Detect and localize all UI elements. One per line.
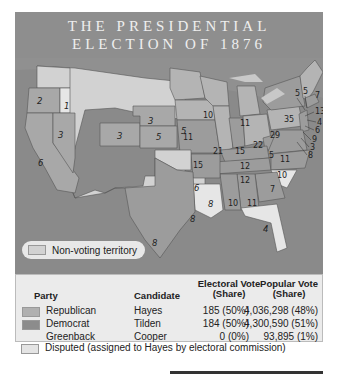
label-virginia: 11 [280, 155, 290, 164]
label-massachusetts: 13 [315, 107, 323, 116]
label-florida: 4 [263, 224, 268, 234]
label-nevada: 3 [58, 130, 63, 140]
map-title: THE PRESIDENTIAL ELECTION OF 1876 [15, 12, 323, 58]
democrat-swatch [22, 320, 40, 330]
disputed-swatch [21, 344, 39, 354]
header-electoral-line2: (Share) [194, 289, 264, 299]
popular-cell: 93,895 (1%) [264, 331, 318, 342]
header-candidate: Candidate [134, 291, 180, 301]
label-michigan: 11 [240, 119, 250, 128]
party-cell: Democrat [46, 318, 89, 329]
label-ohio: 22 [253, 141, 263, 150]
non-voting-label: Non-voting territory [52, 245, 137, 256]
label-connecticut: 6 [315, 126, 320, 135]
title-line-1: THE PRESIDENTIAL [15, 17, 323, 35]
header-popular: Popular Vote (Share) [256, 279, 322, 299]
label-oregon-disputed: 1 [64, 101, 69, 111]
title-line-2: ELECTION OF 1876 [15, 35, 323, 53]
label-west-virginia: 5 [269, 151, 274, 160]
label-georgia: 11 [247, 199, 257, 208]
label-mississippi: 8 [208, 199, 214, 209]
label-kansas: 5 [156, 132, 161, 142]
header-electoral: Electoral Vote (Share) [194, 279, 264, 299]
label-new-hampshire: 5 [303, 87, 308, 96]
label-alabama: 10 [228, 199, 238, 208]
table-row-democrat: Democrat Tilden 184 (50%) 4,300,590 (51%… [16, 318, 324, 330]
party-cell: Greenback [46, 331, 95, 342]
label-arkansas: 6 [194, 183, 200, 193]
label-wisconsin: 10 [203, 111, 213, 120]
label-maryland: 8 [308, 151, 313, 160]
popular-cell: 4,036,298 (48%) [244, 305, 318, 316]
non-voting-legend: Non-voting territory [22, 241, 145, 259]
electoral-cell: 185 (50%) [203, 305, 249, 316]
electoral-cell: 0 (0%) [220, 331, 249, 342]
header-party: Party [34, 291, 58, 301]
label-north-carolina: 10 [277, 171, 287, 180]
non-voting-swatch [28, 245, 46, 255]
label-new-york: 35 [284, 115, 294, 124]
disputed-note: Disputed (assigned to Hayes by electoral… [45, 342, 286, 353]
label-illinois: 21 [213, 147, 223, 156]
candidate-cell: Hayes [134, 305, 162, 316]
table-row-republican: Republican Hayes 185 (50%) 4,036,298 (48… [16, 305, 324, 317]
candidate-cell: Cooper [134, 331, 167, 342]
label-colorado: 3 [117, 131, 122, 141]
popular-cell: 4,300,590 (51%) [244, 318, 318, 329]
label-texas: 8 [152, 238, 158, 248]
label-iowa: 11 [183, 133, 193, 142]
header-popular-line2: (Share) [256, 289, 322, 299]
candidate-cell: Tilden [134, 318, 161, 329]
label-maine: 7 [315, 91, 320, 100]
label-vermont: 5 [295, 89, 300, 98]
republican-swatch [22, 307, 40, 317]
label-louisiana: 8 [190, 214, 196, 224]
label-california: 6 [38, 158, 44, 168]
label-oregon: 2 [37, 96, 42, 106]
party-cell: Republican [46, 305, 96, 316]
disputed-legend-row: Disputed (assigned to Hayes by electoral… [15, 342, 323, 354]
label-tennessee: 12 [240, 176, 250, 185]
label-nebraska: 3 [148, 116, 153, 126]
label-pennsylvania: 29 [270, 131, 280, 140]
label-kentucky: 12 [240, 162, 250, 171]
divider-rule [170, 371, 323, 374]
electoral-cell: 184 (50%) [203, 318, 249, 329]
label-missouri: 15 [193, 161, 203, 170]
results-table: Party Candidate Electoral Vote (Share) P… [15, 274, 323, 342]
label-indiana: 15 [235, 147, 245, 156]
label-south-carolina: 7 [270, 185, 275, 194]
